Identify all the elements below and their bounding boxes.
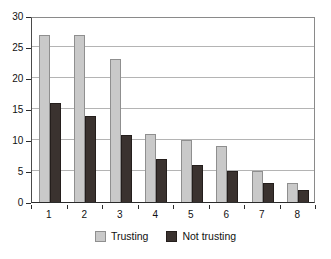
x-tick-mark: [315, 205, 316, 209]
legend-item-not-trusting: Not trusting: [166, 231, 236, 242]
bar-4-trusting: [145, 134, 156, 202]
x-tick-mark: [102, 205, 103, 209]
bar-4-not-trusting: [156, 159, 167, 202]
x-tick-label: 3: [117, 210, 123, 220]
bars-layer: [32, 18, 314, 202]
x-tick-label: 2: [81, 210, 87, 220]
bar-8-not-trusting: [298, 190, 309, 202]
chart-legend: Trusting Not trusting: [0, 231, 331, 242]
y-tick-label: 5: [18, 167, 23, 177]
x-tick-label: 8: [294, 210, 300, 220]
x-tick-mark: [209, 205, 210, 209]
y-tick-label: 0: [18, 198, 23, 208]
bar-2-trusting: [74, 35, 85, 202]
legend-label-trusting: Trusting: [111, 231, 149, 242]
bar-3-not-trusting: [121, 135, 132, 202]
bar-3-trusting: [110, 59, 121, 202]
x-tick-label: 4: [152, 210, 158, 220]
bar-5-not-trusting: [192, 165, 203, 202]
legend-label-not-trusting: Not trusting: [182, 231, 236, 242]
bar-7-not-trusting: [263, 183, 274, 202]
legend-item-trusting: Trusting: [95, 231, 149, 242]
x-tick-mark: [173, 205, 174, 209]
x-tick-mark: [280, 205, 281, 209]
bar-1-trusting: [39, 35, 50, 202]
y-tick-label: 20: [12, 74, 23, 84]
bar-2-not-trusting: [85, 116, 96, 202]
bar-chart: 051015202530 12345678 Trusting Not trust…: [0, 0, 331, 259]
x-tick-mark: [244, 205, 245, 209]
plot-area: [31, 17, 315, 203]
x-tick-label: 5: [188, 210, 194, 220]
bar-7-trusting: [252, 171, 263, 202]
x-tick-label: 7: [259, 210, 265, 220]
x-tick-label: 6: [223, 210, 229, 220]
y-tick-label: 15: [12, 105, 23, 115]
y-axis: 051015202530: [0, 17, 28, 203]
x-axis: 12345678: [31, 205, 315, 223]
bar-8-trusting: [287, 183, 298, 202]
bar-6-trusting: [216, 146, 227, 202]
bar-5-trusting: [181, 140, 192, 202]
legend-swatch-trusting-icon: [95, 231, 106, 242]
y-tick-mark: [26, 203, 31, 204]
x-tick-mark: [67, 205, 68, 209]
x-tick-mark: [138, 205, 139, 209]
bar-1-not-trusting: [50, 103, 61, 202]
x-tick-mark: [31, 205, 32, 209]
y-tick-label: 10: [12, 136, 23, 146]
bar-6-not-trusting: [227, 171, 238, 202]
legend-swatch-not-trusting-icon: [166, 231, 177, 242]
y-tick-label: 30: [12, 12, 23, 22]
x-tick-label: 1: [46, 210, 52, 220]
y-tick-label: 25: [12, 43, 23, 53]
